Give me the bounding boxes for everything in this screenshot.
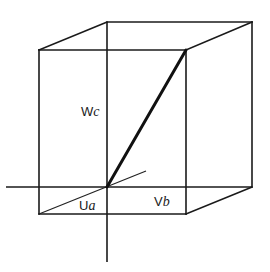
top-right-edge	[186, 22, 252, 50]
label-v-axis: Vb	[154, 194, 170, 209]
cube-vector-diagram: Wc Ua Vb	[0, 0, 270, 272]
resultant-vector	[107, 50, 186, 187]
top-left-edge	[39, 22, 107, 50]
label-w-axis: Wc	[81, 104, 100, 119]
label-u-axis: Ua	[79, 198, 95, 213]
bottom-right-edge	[186, 187, 252, 214]
coordinate-axes	[6, 22, 252, 262]
